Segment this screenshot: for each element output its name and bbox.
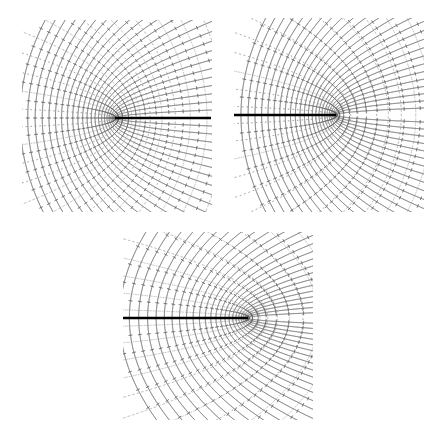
- panel-bottom-center-streamlines: [123, 232, 313, 420]
- panel-top-left: [22, 20, 212, 212]
- panel-bottom-center-direction-ticks: [123, 234, 312, 418]
- panel-top-left-streamlines: [22, 20, 212, 212]
- figure-root: [0, 0, 438, 438]
- panel-bottom-center: [123, 232, 313, 420]
- panel-top-left-canvas: [22, 20, 212, 212]
- panel-top-left-equipotentials: [22, 20, 212, 212]
- panel-top-right-canvas: [234, 18, 424, 212]
- panel-top-right: [234, 18, 424, 212]
- panel-bottom-center-canvas: [123, 232, 313, 420]
